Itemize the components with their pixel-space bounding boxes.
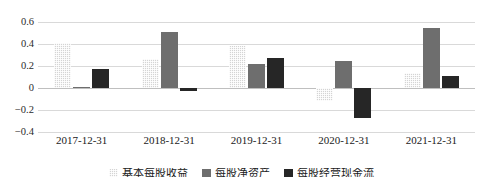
bar-group [300,22,387,132]
y-tick-label: −0.2 [0,105,34,115]
bar [442,76,459,88]
legend-label: 基本每股收益 [122,168,188,177]
y-tick-label: 0 [0,83,34,93]
bar [267,58,284,88]
bar [423,28,440,89]
bar [335,61,352,89]
y-tick-label: −0.4 [0,127,34,137]
x-axis: 2017-12-31 2018-12-31 2019-12-31 2020-12… [38,134,475,150]
x-tick-label: 2021-12-31 [388,134,475,150]
bar [316,88,333,101]
plot-area [38,22,475,132]
bar [73,87,90,88]
bar-group [38,22,125,132]
bar [54,43,71,88]
bar [248,64,265,88]
bar [161,32,178,88]
x-tick-label: 2017-12-31 [38,134,125,150]
bar [354,88,371,118]
bar [142,59,159,88]
bar [180,88,197,91]
y-tick-label: 0.6 [0,17,34,27]
bar-groups [38,22,475,132]
gridline [38,132,475,133]
y-tick-label: 0.4 [0,39,34,49]
legend-item: 基本每股收益 [109,168,188,177]
bar [404,73,421,88]
legend-swatch-icon [202,169,211,177]
bar-group [388,22,475,132]
y-tick-label: 0.2 [0,61,34,71]
legend-label: 每股经营现金流 [297,168,374,177]
bar-group [213,22,300,132]
bar-group [125,22,212,132]
legend-item: 每股净资产 [202,168,270,177]
bar [92,69,109,88]
bar [229,46,246,88]
x-tick-label: 2019-12-31 [213,134,300,150]
legend-swatch-icon [284,169,293,177]
legend-item: 每股经营现金流 [284,168,374,177]
y-axis: 0.6 0.4 0.2 0 −0.2 −0.4 [0,22,36,132]
x-tick-label: 2020-12-31 [300,134,387,150]
x-tick-label: 2018-12-31 [125,134,212,150]
legend-label: 每股净资产 [215,168,270,177]
bar-chart: 0.6 0.4 0.2 0 −0.2 −0.4 2017-12-31 2018-… [0,0,483,177]
legend-swatch-icon [109,169,118,177]
chart-legend: 基本每股收益 每股净资产 每股经营现金流 [0,168,483,177]
